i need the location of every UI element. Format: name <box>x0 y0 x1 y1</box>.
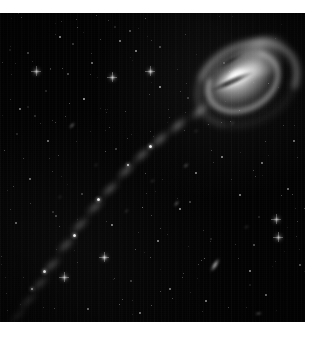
screenshot-canvas <box>0 0 321 339</box>
vignette <box>0 13 305 322</box>
astronomy-photograph <box>0 13 305 322</box>
